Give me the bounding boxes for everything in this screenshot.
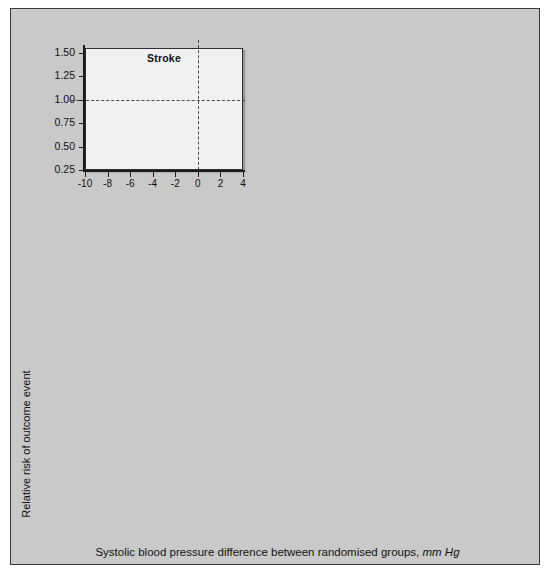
y-tick-label: 0.50: [37, 140, 75, 152]
y-axis-label: Relative risk of outcome event: [20, 344, 32, 544]
reference-line-horizontal: [71, 100, 245, 101]
y-tick-mark: [79, 100, 84, 101]
plot-area-stroke: [85, 48, 243, 170]
y-axis-label-container: Relative risk of outcome event: [8, 170, 32, 370]
x-axis-label-units: mm Hg: [423, 546, 460, 558]
x-tick-mark: [220, 172, 221, 177]
y-tick-mark: [79, 123, 84, 124]
x-tick-mark: [153, 172, 154, 177]
y-axis-spine: [83, 45, 85, 172]
y-tick-mark: [79, 76, 84, 77]
panel-title-stroke: Stroke: [85, 52, 243, 64]
panel-grid: 0.250.500.751.001.251.50-10-8-6-4-2024St…: [0, 0, 555, 576]
x-tick-mark: [198, 172, 199, 177]
y-tick-mark: [79, 147, 84, 148]
y-tick-mark: [79, 53, 84, 54]
figure-root: 0.250.500.751.001.251.50-10-8-6-4-2024St…: [0, 0, 555, 576]
y-tick-label: 0.75: [37, 116, 75, 128]
x-tick-mark: [243, 172, 244, 177]
y-tick-label: 0.25: [37, 163, 75, 175]
x-tick-mark: [175, 172, 176, 177]
y-tick-label: 1.00: [37, 93, 75, 105]
x-axis-label-main: Systolic blood pressure difference betwe…: [95, 546, 419, 558]
x-tick-mark: [108, 172, 109, 177]
y-tick-label: 1.50: [37, 46, 75, 58]
y-tick-label: 1.25: [37, 69, 75, 81]
x-axis-label: Systolic blood pressure difference betwe…: [0, 546, 555, 558]
x-tick-mark: [130, 172, 131, 177]
x-tick-label: 4: [228, 178, 258, 189]
x-tick-mark: [85, 172, 86, 177]
